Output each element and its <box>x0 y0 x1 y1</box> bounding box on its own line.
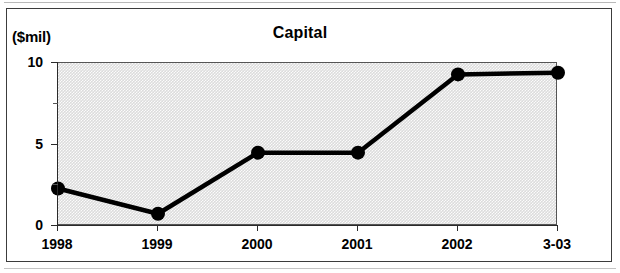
x-axis-tick-label: 1999 <box>117 237 197 251</box>
x-axis-tick-label: 1998 <box>17 237 97 251</box>
x-axis-tick <box>357 225 358 231</box>
data-point <box>351 146 365 160</box>
x-axis-tick <box>157 225 158 231</box>
y-axis-tick-major <box>51 144 58 145</box>
series-line-capital <box>58 73 558 214</box>
y-axis-tick-label: 5 <box>3 137 43 151</box>
y-axis-tick-major <box>51 62 58 63</box>
data-point <box>251 146 265 160</box>
chart-title: Capital <box>200 24 400 42</box>
y-axis-tick-label: 10 <box>3 55 43 69</box>
data-point <box>151 207 165 221</box>
x-axis-tick <box>557 225 558 231</box>
scan-rule-bottom <box>4 268 616 269</box>
data-point <box>451 67 465 81</box>
x-axis-tick-label: 3-03 <box>517 237 597 251</box>
y-axis-tick-minor <box>53 184 58 185</box>
data-series-capital <box>50 55 566 234</box>
x-axis-tick-label: 2002 <box>417 237 497 251</box>
y-axis-tick-label: 0 <box>3 218 43 232</box>
x-axis-tick-label: 2001 <box>317 237 397 251</box>
chart-figure: ($mil) Capital 0510 19981999200020012002… <box>0 0 620 273</box>
x-axis-line <box>57 225 558 226</box>
x-axis-tick <box>457 225 458 231</box>
x-axis-tick-label: 2000 <box>217 237 297 251</box>
x-axis-tick <box>57 225 58 231</box>
series-markers-capital <box>51 66 565 221</box>
x-axis-tick <box>257 225 258 231</box>
y-axis-tick-minor <box>53 103 58 104</box>
scan-rule-top <box>4 2 616 3</box>
y-axis-units-label: ($mil) <box>12 28 51 45</box>
plot-area <box>57 62 557 225</box>
data-point <box>551 66 565 80</box>
